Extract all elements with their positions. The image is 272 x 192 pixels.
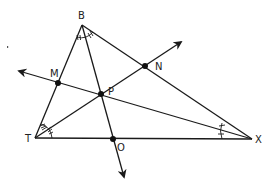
side-BX bbox=[82, 25, 252, 139]
point-O bbox=[110, 136, 116, 142]
triangle-diagram: B T X P M N O bbox=[0, 0, 272, 192]
ray-B-through-P-O bbox=[82, 25, 124, 177]
label-T: T bbox=[24, 133, 32, 144]
point-P bbox=[98, 91, 104, 97]
label-B: B bbox=[78, 10, 85, 21]
point-M bbox=[55, 80, 61, 86]
ray-X-through-P-M bbox=[19, 71, 252, 139]
point-N bbox=[142, 63, 148, 69]
label-X: X bbox=[255, 134, 262, 145]
label-P: P bbox=[108, 86, 114, 97]
side-TX bbox=[35, 138, 252, 139]
label-M: M bbox=[50, 68, 59, 79]
label-N: N bbox=[155, 61, 162, 72]
speck bbox=[7, 46, 8, 48]
label-O: O bbox=[117, 142, 125, 153]
